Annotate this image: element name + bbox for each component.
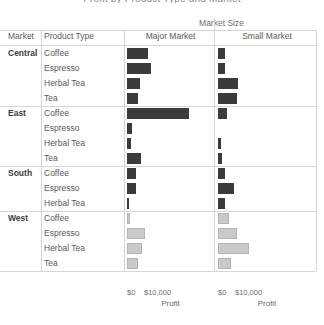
bar[interactable] xyxy=(127,108,189,119)
bar-cell-small xyxy=(218,123,316,134)
product-type-label: Tea xyxy=(44,258,58,268)
grid-line-horizontal xyxy=(0,30,316,31)
bar[interactable] xyxy=(127,63,151,74)
bar[interactable] xyxy=(218,168,225,179)
table-row: Herbal Tea xyxy=(0,196,316,211)
product-type-label: Coffee xyxy=(44,48,69,58)
axis-title-small: Profit xyxy=(218,299,316,308)
bar-cell-small xyxy=(218,243,316,254)
market-label: West xyxy=(8,213,28,223)
bar[interactable] xyxy=(218,183,234,194)
header-market: Market xyxy=(8,31,34,41)
product-type-label: Herbal Tea xyxy=(44,243,85,253)
bar-cell-small xyxy=(218,108,316,119)
bar-cell-major xyxy=(127,198,214,209)
table-row: Espresso xyxy=(0,226,316,241)
axis-title-major: Profit xyxy=(127,299,214,308)
bar-cell-small xyxy=(218,198,316,209)
bar[interactable] xyxy=(127,258,138,269)
bar-cell-small xyxy=(218,258,316,269)
table-row: CentralCoffee xyxy=(0,46,316,61)
table-row: Herbal Tea xyxy=(0,76,316,91)
table-row: SouthCoffee xyxy=(0,166,316,181)
bar[interactable] xyxy=(127,213,130,224)
product-type-label: Herbal Tea xyxy=(44,138,85,148)
bar[interactable] xyxy=(127,168,136,179)
bar[interactable] xyxy=(218,213,229,224)
table-row: Herbal Tea xyxy=(0,136,316,151)
bar-cell-major xyxy=(127,123,214,134)
bar[interactable] xyxy=(218,108,227,119)
chart-title: Profit by Product Type and Market xyxy=(0,0,324,3)
bar-cell-major xyxy=(127,183,214,194)
bar[interactable] xyxy=(218,63,225,74)
bar[interactable] xyxy=(218,93,237,104)
product-type-label: Coffee xyxy=(44,108,69,118)
bar[interactable] xyxy=(127,138,131,149)
axis-tick-zero-major: $0 xyxy=(127,288,135,297)
bar[interactable] xyxy=(127,123,132,134)
axis-small-market: $0 $10,000 Profit xyxy=(218,288,316,314)
table-row: Herbal Tea xyxy=(0,241,316,256)
bar[interactable] xyxy=(127,48,148,59)
bar-cell-major xyxy=(127,228,214,239)
market-label: East xyxy=(8,108,26,118)
grid-line-vertical xyxy=(316,30,317,271)
bar[interactable] xyxy=(218,228,237,239)
table-row: Tea xyxy=(0,256,316,271)
bar[interactable] xyxy=(127,243,142,254)
bar[interactable] xyxy=(218,258,231,269)
bar[interactable] xyxy=(218,243,249,254)
bar-cell-small xyxy=(218,153,316,164)
product-type-label: Herbal Tea xyxy=(44,198,85,208)
bar-cell-major xyxy=(127,108,214,119)
bar-cell-major xyxy=(127,243,214,254)
bar-cell-small xyxy=(218,78,316,89)
table-row: Tea xyxy=(0,91,316,106)
bar[interactable] xyxy=(218,153,222,164)
product-type-label: Espresso xyxy=(44,183,79,193)
bar[interactable] xyxy=(127,198,129,209)
bar[interactable] xyxy=(127,183,136,194)
product-type-label: Tea xyxy=(44,153,58,163)
bar[interactable] xyxy=(127,78,140,89)
bar[interactable] xyxy=(218,198,225,209)
profit-crosstab-chart: Profit by Product Type and Market Market… xyxy=(0,0,324,325)
product-type-label: Espresso xyxy=(44,228,79,238)
bar-cell-small xyxy=(218,213,316,224)
product-type-label: Tea xyxy=(44,93,58,103)
table-row: Tea xyxy=(0,151,316,166)
bar[interactable] xyxy=(218,48,225,59)
product-type-label: Espresso xyxy=(44,63,79,73)
bar-cell-major xyxy=(127,258,214,269)
bar-cell-major xyxy=(127,78,214,89)
axis-major-market: $0 $10,000 Profit xyxy=(127,288,214,314)
header-product-type: Product Type xyxy=(44,31,94,41)
product-type-label: Espresso xyxy=(44,123,79,133)
product-type-label: Coffee xyxy=(44,213,69,223)
market-label: South xyxy=(8,168,32,178)
bar-cell-major xyxy=(127,48,214,59)
bar[interactable] xyxy=(127,93,138,104)
bar-cell-major xyxy=(127,168,214,179)
bar-cell-small xyxy=(218,93,316,104)
market-size-caption: Market Size xyxy=(127,18,316,28)
bar[interactable] xyxy=(218,138,221,149)
bar-cell-small xyxy=(218,183,316,194)
bar-cell-major xyxy=(127,138,214,149)
axis-tick-ten-small: $10,000 xyxy=(235,288,262,297)
bar[interactable] xyxy=(218,78,238,89)
product-type-label: Herbal Tea xyxy=(44,78,85,88)
table-row: Espresso xyxy=(0,121,316,136)
bar[interactable] xyxy=(127,228,145,239)
bar-cell-major xyxy=(127,153,214,164)
axis-tick-zero-small: $0 xyxy=(218,288,226,297)
header-major-market: Major Market xyxy=(127,31,214,41)
bar-cell-small xyxy=(218,228,316,239)
table-row: Espresso xyxy=(0,181,316,196)
bar-cell-small xyxy=(218,168,316,179)
bar-cell-small xyxy=(218,138,316,149)
bar[interactable] xyxy=(127,153,141,164)
table-row: WestCoffee xyxy=(0,211,316,226)
table-header-row: Market Product Type Major Market Small M… xyxy=(0,30,316,45)
